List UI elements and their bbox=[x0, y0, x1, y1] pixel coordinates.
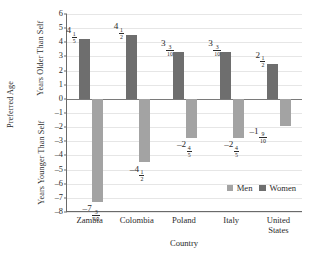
y-tick-mark bbox=[64, 197, 68, 198]
bar-men bbox=[186, 99, 197, 139]
y-tick-label: –7 bbox=[55, 194, 63, 202]
preferred-age-bar-chart: Preferred Age Years Older Than Self Year… bbox=[0, 0, 323, 255]
bar-women bbox=[173, 52, 184, 99]
y-tick-label: 0 bbox=[59, 95, 63, 103]
legend-swatch-men-icon bbox=[227, 185, 234, 192]
bar-value-label: 415 bbox=[67, 26, 77, 44]
x-tick-label: United States bbox=[255, 216, 302, 236]
y-tick-mark bbox=[64, 113, 68, 114]
gridline bbox=[67, 28, 302, 29]
gridline bbox=[67, 56, 302, 57]
y-tick-mark bbox=[64, 155, 68, 156]
y-tick-label: 4 bbox=[59, 38, 63, 46]
bar-men bbox=[280, 99, 291, 126]
y-tick-mark bbox=[64, 56, 68, 57]
y-tick-mark bbox=[64, 141, 68, 142]
plot-area: 6543210–1–2–3–4–5–6–7–8415–7310412–41233… bbox=[66, 14, 302, 212]
y-tick-mark bbox=[64, 14, 68, 15]
y-tick-label: 6 bbox=[59, 10, 63, 18]
gridline bbox=[67, 212, 302, 213]
bar-value-label: 3310 bbox=[161, 39, 174, 57]
y-tick-mark bbox=[64, 169, 68, 170]
legend-item-women: Women bbox=[259, 183, 296, 193]
legend-swatch-women-icon bbox=[259, 185, 266, 192]
bar-value-label: 412 bbox=[114, 22, 124, 40]
y-tick-label: –8 bbox=[55, 208, 63, 216]
y-tick-label: 1 bbox=[59, 81, 63, 89]
bar-value-label: 3310 bbox=[208, 39, 221, 57]
bar-men bbox=[233, 99, 244, 139]
legend-label-men: Men bbox=[237, 183, 253, 193]
y-tick-label: –1 bbox=[55, 109, 63, 117]
y-tick-mark bbox=[64, 84, 68, 85]
y-axis-title: Preferred Age bbox=[6, 73, 15, 137]
bar-value-label: –245 bbox=[224, 140, 239, 158]
chart-legend: Men Women bbox=[227, 183, 296, 193]
y-tick-mark bbox=[64, 127, 68, 128]
y-tick-label: 2 bbox=[59, 66, 63, 74]
y-tick-label: 5 bbox=[59, 24, 63, 32]
legend-label-women: Women bbox=[269, 183, 296, 193]
bar-value-label: –245 bbox=[177, 140, 192, 158]
bar-women bbox=[267, 64, 278, 99]
bar-women bbox=[126, 35, 137, 99]
x-tick-label: Italy bbox=[208, 216, 255, 226]
y-axis-upper-label: Years Older Than Self bbox=[36, 26, 45, 96]
y-tick-label: –4 bbox=[55, 151, 63, 159]
bar-value-label: 212 bbox=[255, 51, 265, 69]
bar-value-label: –412 bbox=[130, 165, 145, 183]
x-tick-label: Poland bbox=[160, 216, 207, 226]
bar-women bbox=[79, 39, 90, 98]
y-tick-label: –3 bbox=[55, 137, 63, 145]
gridline bbox=[67, 42, 302, 43]
plot-inner: 6543210–1–2–3–4–5–6–7–8415–7310412–41233… bbox=[67, 14, 302, 211]
x-tick-label: Zambia bbox=[66, 216, 113, 226]
y-tick-mark bbox=[64, 183, 68, 184]
bar-value-label: –1910 bbox=[249, 127, 267, 145]
bar-women bbox=[220, 52, 231, 99]
y-tick-mark bbox=[64, 212, 68, 213]
x-axis-title: Country bbox=[66, 238, 302, 248]
y-tick-label: –6 bbox=[55, 180, 63, 188]
y-tick-label: –5 bbox=[55, 165, 63, 173]
bar-men bbox=[92, 99, 103, 202]
y-tick-label: 3 bbox=[59, 52, 63, 60]
y-tick-label: –2 bbox=[55, 123, 63, 131]
y-axis-lower-label: Years Younger Than Self bbox=[37, 125, 46, 205]
bar-men bbox=[139, 99, 150, 163]
gridline bbox=[67, 14, 302, 15]
y-tick-mark bbox=[64, 70, 68, 71]
legend-item-men: Men bbox=[227, 183, 253, 193]
x-tick-label: Colombia bbox=[113, 216, 160, 226]
